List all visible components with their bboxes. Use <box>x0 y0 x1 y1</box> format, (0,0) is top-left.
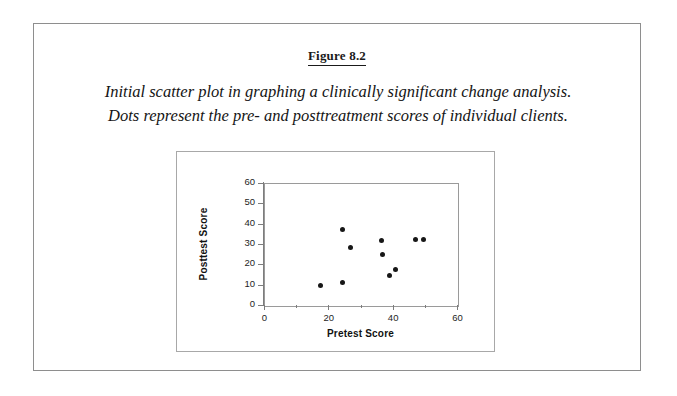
scatter-point <box>387 273 392 278</box>
scatter-point <box>413 237 418 242</box>
x-tick-label: 20 <box>324 312 335 323</box>
scatter-point <box>421 237 426 242</box>
x-minor-tick <box>296 305 297 308</box>
scatter-point <box>340 227 345 232</box>
x-tick-label: 0 <box>262 312 267 323</box>
y-tick: 50 <box>258 203 264 204</box>
figure-title-text: Figure 8.2 <box>308 48 366 66</box>
x-tick: 20 <box>328 305 329 310</box>
x-tick: 0 <box>264 305 265 310</box>
figure-caption-line-1: Initial scatter plot in graphing a clini… <box>64 80 612 104</box>
y-tick: 20 <box>258 264 264 265</box>
y-tick-label: 30 <box>244 237 255 248</box>
x-minor-tick <box>425 305 426 308</box>
scatter-point <box>348 245 353 250</box>
y-tick-label: 10 <box>244 278 255 289</box>
scatter-point <box>379 238 384 243</box>
x-tick: 40 <box>393 305 394 310</box>
scatter-point <box>318 283 323 288</box>
figure-caption-line-2: Dots represent the pre- and posttreatmen… <box>64 104 612 128</box>
figure-page-frame: Figure 8.2 Initial scatter plot in graph… <box>33 23 641 371</box>
x-tick-label: 40 <box>388 312 399 323</box>
figure-title: Figure 8.2 <box>34 46 640 64</box>
scatter-point <box>380 252 385 257</box>
y-tick-label: 50 <box>244 196 255 207</box>
plot-area <box>264 183 459 307</box>
x-tick-label: 60 <box>452 312 463 323</box>
x-axis-title: Pretest Score <box>264 328 457 339</box>
y-tick-label: 20 <box>244 257 255 268</box>
y-tick-label: 40 <box>244 217 255 228</box>
y-tick-label: 0 <box>250 298 255 309</box>
y-tick: 60 <box>258 183 264 184</box>
x-minor-tick <box>361 305 362 308</box>
x-tick: 60 <box>457 305 458 310</box>
y-tick: 30 <box>258 244 264 245</box>
scatter-chart-container: 0102030405060 0204060 Pretest Score Post… <box>176 151 495 352</box>
y-tick-label: 60 <box>244 176 255 187</box>
figure-caption: Initial scatter plot in graphing a clini… <box>64 80 612 128</box>
y-tick: 10 <box>258 285 264 286</box>
y-axis-title: Posttest Score <box>198 208 209 281</box>
y-tick: 40 <box>258 224 264 225</box>
